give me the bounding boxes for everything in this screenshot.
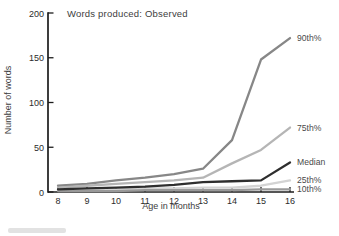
y-tick-label: 200	[29, 9, 44, 19]
series-label-75th-percentile: 75th%	[297, 123, 322, 133]
x-tick-label: 8	[55, 196, 60, 206]
y-tick-label: 0	[39, 188, 44, 198]
x-tick-label: 12	[169, 196, 179, 206]
x-tick-label: 11	[140, 196, 149, 206]
x-tick-label: 16	[285, 196, 295, 206]
series-line-90th-percentile	[58, 38, 290, 186]
x-tick-label: 13	[198, 196, 208, 206]
bottom-left-gray-bar	[8, 228, 66, 233]
x-tick-label: 9	[84, 196, 89, 206]
y-tick-label: 100	[29, 98, 44, 108]
chart-svg: 050100150200891011121314151690th%75th%Me…	[0, 0, 339, 236]
chart-figure: Words produced: Observed Number of words…	[0, 0, 339, 236]
x-tick-label: 15	[256, 196, 266, 206]
y-tick-label: 50	[34, 143, 44, 153]
series-label-10th-percentile: 10th%	[297, 184, 322, 194]
series-line-75th-percentile	[58, 128, 290, 188]
x-tick-label: 10	[111, 196, 121, 206]
y-tick-label: 150	[29, 53, 44, 63]
series-label-90th-percentile: 90th%	[297, 33, 322, 43]
series-label-median: Median	[297, 157, 325, 167]
x-tick-label: 14	[227, 196, 237, 206]
